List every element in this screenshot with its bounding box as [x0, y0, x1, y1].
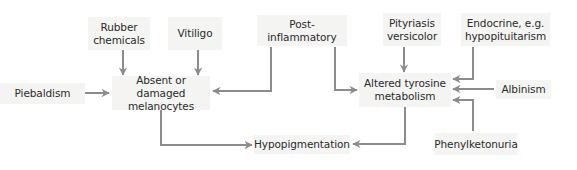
node-albinism: Albinism — [496, 80, 551, 99]
node-rubber-chemicals: Rubber chemicals — [88, 17, 150, 50]
node-post-inflammatory: Post-inflammatory — [257, 15, 347, 46]
node-hypopigmentation: Hypopigmentation — [254, 135, 350, 154]
arrow-postinflam-to-tyrosine — [335, 47, 357, 90]
node-endocrine: Endocrine, e.g. hypopituitarism — [461, 13, 550, 46]
node-phenylketonuria: Phenylketonuria — [435, 133, 517, 155]
arrow-endocrine-to-tyrosine — [453, 47, 473, 79]
node-piebaldism: Piebaldism — [0, 83, 85, 104]
arrow-melanocytes-to-hypopigmentation — [161, 110, 252, 145]
arrow-postinflam-to-melanocytes — [213, 47, 271, 91]
arrow-tyrosine-to-hypopigmentation — [353, 107, 405, 144]
node-pityriasis-versicolor: Pityriasis versicolor — [383, 13, 441, 46]
arrow-pku-to-tyrosine — [453, 100, 473, 131]
node-altered-tyrosine-metabolism: Altered tyrosine metabolism — [359, 73, 451, 107]
node-vitiligo: Vitiligo — [168, 17, 222, 50]
node-absent-damaged-melanocytes: Absent or damaged melanocytes — [112, 76, 210, 110]
